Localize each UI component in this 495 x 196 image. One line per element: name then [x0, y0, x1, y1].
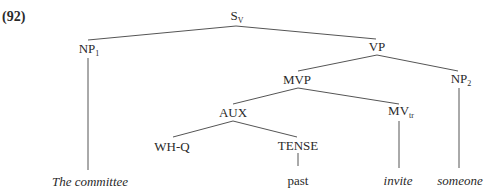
- node-np2: NP2: [451, 72, 472, 88]
- edge-s-np1: [88, 26, 236, 40]
- node-whq-label: WH-Q: [154, 139, 189, 154]
- node-tense-label: TENSE: [278, 138, 318, 153]
- leaf-invite: invite: [384, 174, 413, 187]
- node-mvp: MVP: [283, 73, 311, 86]
- node-np1-subscript: 1: [95, 49, 99, 58]
- leaf-past: past: [288, 174, 309, 187]
- edge-aux-whq: [173, 121, 233, 137]
- leaf-someone: someone: [437, 174, 483, 187]
- node-vp: VP: [369, 40, 386, 53]
- node-np2-label: NP: [451, 71, 468, 86]
- node-vp-label: VP: [369, 39, 386, 54]
- tree-edges: [0, 0, 495, 196]
- edge-vp-np2: [377, 55, 458, 71]
- node-mvtr: MVtr: [388, 104, 414, 120]
- node-s: SV: [230, 9, 243, 25]
- edge-aux-tense: [233, 121, 297, 137]
- edge-mvp-mvtr: [298, 88, 399, 104]
- node-np1-label: NP: [79, 41, 96, 56]
- node-aux-label: AUX: [219, 105, 247, 120]
- node-mvp-label: MVP: [283, 72, 311, 87]
- node-tense: TENSE: [278, 139, 318, 152]
- leaf-the-committee: The committee: [52, 175, 128, 188]
- edge-s-vp: [236, 26, 376, 39]
- node-whq: WH-Q: [154, 140, 189, 153]
- edge-mvp-aux: [233, 88, 298, 104]
- node-mvtr-label: MV: [388, 103, 409, 118]
- example-number: (92): [2, 9, 25, 25]
- node-s-subscript: V: [238, 16, 244, 25]
- node-np1: NP1: [79, 42, 100, 58]
- node-mvtr-subscript: tr: [409, 111, 414, 120]
- node-np2-subscript: 2: [467, 79, 471, 88]
- node-aux: AUX: [219, 106, 247, 119]
- edge-vp-mvp: [298, 55, 377, 71]
